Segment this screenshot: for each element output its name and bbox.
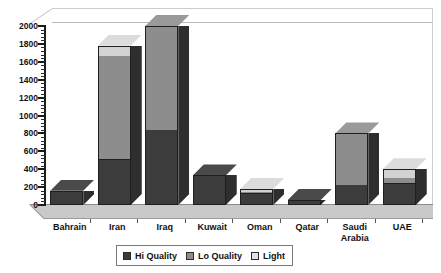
bar-top-face — [145, 15, 189, 26]
y-axis-tick-minor — [41, 144, 46, 145]
y-axis-tick-minor — [41, 148, 46, 149]
bar-segment-light — [384, 169, 415, 178]
y-axis-tick-minor — [41, 130, 46, 131]
y-axis-tick-minor — [41, 83, 46, 84]
legend-swatch-hi-quality-icon — [123, 252, 131, 260]
x-axis-tick — [137, 219, 138, 223]
bar-top-face — [193, 164, 237, 175]
y-axis-tick-minor — [41, 55, 46, 56]
bar-column[interactable] — [98, 46, 131, 205]
legend-label-lo-quality: Lo Quality — [198, 251, 242, 261]
y-axis-tick-minor — [41, 158, 46, 159]
y-axis-tick-major — [38, 186, 46, 188]
x-axis-tick — [90, 219, 91, 223]
bar-segment-light — [99, 46, 130, 57]
x-axis-tick — [185, 219, 186, 223]
bar-front-face — [145, 26, 178, 205]
legend-swatch-lo-quality-icon — [186, 252, 194, 260]
bar-front-face — [193, 175, 226, 205]
y-axis-tick-minor — [41, 33, 46, 34]
y-axis-tick-minor — [41, 37, 46, 38]
bar-side-face — [178, 26, 189, 205]
legend-label-hi-quality: Hi Quality — [135, 251, 177, 261]
bar-column[interactable] — [383, 169, 416, 205]
bar-segment-lo-quality — [336, 133, 367, 185]
bar-segment-hi-quality — [194, 175, 225, 205]
bar-front-face — [383, 169, 416, 205]
y-axis-tick-minor — [41, 76, 46, 77]
bar-top-face — [98, 35, 142, 46]
bar-segment-hi-quality — [336, 185, 367, 205]
y-axis-tick-minor — [41, 173, 46, 174]
y-axis-tick-minor — [41, 137, 46, 138]
x-axis-tick — [327, 219, 328, 223]
x-axis-tick — [422, 219, 423, 223]
y-axis-tick-major — [38, 25, 46, 27]
y-axis-tick-major — [38, 132, 46, 134]
y-axis-tick-minor — [41, 198, 46, 199]
bar-top-face — [335, 122, 379, 133]
bar-front-face — [240, 189, 273, 205]
bar-column[interactable] — [335, 133, 368, 205]
y-axis-tick-minor — [41, 108, 46, 109]
bar-segment-hi-quality — [51, 191, 82, 205]
bar-side-face — [416, 169, 427, 205]
y-axis-tick-minor — [41, 119, 46, 120]
legend-item-lo-quality[interactable]: Lo Quality — [186, 251, 242, 261]
y-axis-tick-major — [38, 115, 46, 117]
y-axis-tick-major — [38, 79, 46, 81]
x-axis-label-uae: UAE — [371, 222, 435, 233]
y-axis-tick-major — [38, 168, 46, 170]
bar-segment-hi-quality — [289, 200, 320, 205]
y-axis-tick-minor — [41, 51, 46, 52]
y-axis-tick-minor — [41, 176, 46, 177]
y-axis-tick-minor — [41, 180, 46, 181]
y-axis-tick-minor — [41, 73, 46, 74]
y-axis-tick-minor — [41, 101, 46, 102]
bar-side-face — [321, 200, 332, 205]
bar-column[interactable] — [288, 200, 321, 205]
y-axis-tick-minor — [41, 112, 46, 113]
bar-column[interactable] — [240, 189, 273, 205]
y-axis-tick-minor — [41, 123, 46, 124]
bar-top-face — [240, 178, 284, 189]
legend-item-hi-quality[interactable]: Hi Quality — [123, 251, 177, 261]
bar-side-face — [273, 189, 284, 205]
y-axis-tick-minor — [41, 40, 46, 41]
bar-front-face — [335, 133, 368, 205]
y-axis-tick-minor — [41, 58, 46, 59]
bar-side-face — [226, 175, 237, 205]
y-axis-tick-minor — [41, 69, 46, 70]
y-axis-tick-major — [38, 43, 46, 45]
y-axis-tick-major — [38, 97, 46, 99]
chart-figure: 0200400600800100012001400160018002000 Ba… — [0, 0, 441, 273]
y-axis-tick-minor — [41, 47, 46, 48]
bar-front-face — [288, 200, 321, 205]
bar-column[interactable] — [145, 26, 178, 205]
bar-top-face — [383, 158, 427, 169]
y-axis-tick-minor — [41, 162, 46, 163]
y-axis-tick-minor — [41, 87, 46, 88]
bar-front-face — [50, 191, 83, 205]
bar-front-face — [98, 46, 131, 205]
bar-segment-hi-quality — [99, 160, 130, 205]
y-axis-tick-minor — [41, 30, 46, 31]
y-axis-tick-major — [38, 150, 46, 152]
bar-top-face — [50, 180, 94, 191]
bar-column[interactable] — [50, 191, 83, 205]
bar-segment-hi-quality — [241, 194, 272, 205]
y-axis-tick-minor — [41, 65, 46, 66]
y-axis-tick-minor — [41, 126, 46, 127]
bar-segment-lo-quality — [384, 178, 415, 185]
y-axis-tick-minor — [41, 94, 46, 95]
legend-item-light[interactable]: Light — [251, 251, 285, 261]
y-axis-tick-minor — [41, 201, 46, 202]
y-axis-tick-minor — [41, 90, 46, 91]
bar-top-face — [288, 189, 332, 200]
y-axis-tick-major — [38, 61, 46, 63]
y-axis-tick-major — [38, 204, 46, 206]
y-axis-tick-minor — [41, 105, 46, 106]
bar-column[interactable] — [193, 175, 226, 205]
bar-side-face — [83, 191, 94, 205]
y-axis-tick-minor — [41, 194, 46, 195]
